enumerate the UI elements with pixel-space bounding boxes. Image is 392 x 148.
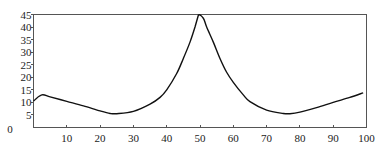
y-tick-label: 20	[21, 71, 33, 83]
x-tick-label: 70	[261, 132, 273, 144]
x-tick-label: 20	[95, 132, 107, 144]
y-tick-label: 15	[21, 84, 33, 96]
y-axis: 051015202530354045	[7, 9, 33, 135]
y-tick-label: 0	[7, 123, 13, 135]
line-chart: 051015202530354045 102030405060708090100	[0, 0, 392, 148]
y-tick-label: 5	[26, 109, 32, 121]
plot-frame	[34, 15, 367, 128]
y-tick-label: 35	[21, 34, 33, 46]
y-tick-label: 10	[21, 96, 33, 108]
x-tick-label: 50	[195, 132, 207, 144]
data-line	[34, 15, 364, 114]
x-tick-label: 60	[228, 132, 240, 144]
x-tick-label: 40	[161, 132, 173, 144]
y-tick-label: 40	[21, 21, 33, 33]
y-tick-label: 45	[21, 9, 33, 21]
x-tick-label: 30	[128, 132, 140, 144]
y-tick-label: 25	[21, 59, 33, 71]
x-tick-label: 90	[328, 132, 340, 144]
y-tick-label: 30	[21, 46, 33, 58]
x-tick-label: 80	[294, 132, 306, 144]
x-tick-label: 10	[61, 132, 73, 144]
x-tick-label: 100	[358, 132, 375, 144]
